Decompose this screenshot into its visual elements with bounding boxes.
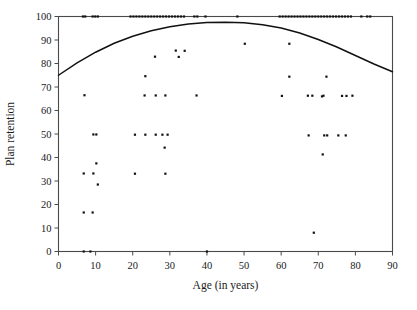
data-point (174, 15, 176, 17)
data-point (288, 76, 290, 78)
data-point (366, 15, 368, 17)
plot-frame (59, 17, 393, 252)
data-point (153, 15, 155, 17)
data-point (92, 172, 94, 174)
data-point (204, 15, 206, 17)
data-point (95, 162, 97, 164)
data-point (177, 15, 179, 17)
data-point (325, 76, 327, 78)
data-point (329, 15, 331, 17)
data-point (308, 134, 310, 136)
data-point-group (82, 15, 371, 252)
data-point (311, 15, 313, 17)
x-tick-label: 90 (387, 260, 398, 271)
y-tick-label: 60 (41, 105, 52, 116)
data-point (92, 211, 94, 213)
fit-curve (59, 22, 393, 75)
data-point (281, 95, 283, 97)
data-point (135, 15, 137, 17)
data-point (282, 15, 284, 17)
x-tick-label: 0 (56, 260, 61, 271)
data-point (144, 94, 146, 96)
data-point (299, 15, 301, 17)
data-point (314, 15, 316, 17)
data-point (138, 15, 140, 17)
data-point (305, 15, 307, 17)
data-point (92, 15, 94, 17)
data-point (311, 95, 313, 97)
data-point (347, 15, 349, 17)
data-point (150, 15, 152, 17)
data-point (165, 15, 167, 17)
data-point (323, 15, 325, 17)
data-point (154, 56, 156, 58)
data-point (183, 15, 185, 17)
y-tick-label: 90 (41, 35, 52, 46)
data-point (97, 15, 99, 17)
data-point (360, 15, 362, 17)
data-point (155, 134, 157, 136)
data-point (244, 43, 246, 45)
data-point (341, 15, 343, 17)
x-tick-label: 30 (165, 260, 176, 271)
data-point (302, 15, 304, 17)
y-tick-label: 10 (41, 223, 52, 234)
data-point (134, 134, 136, 136)
data-point (89, 250, 91, 252)
data-point (279, 15, 281, 17)
y-tick-label: 20 (41, 199, 52, 210)
data-point (92, 133, 94, 135)
y-tick-label: 80 (41, 58, 52, 69)
data-point (83, 172, 85, 174)
data-point (83, 211, 85, 213)
data-point (97, 183, 99, 185)
data-point (162, 15, 164, 17)
data-point (196, 15, 198, 17)
x-tick-label: 70 (313, 260, 324, 271)
data-point (147, 15, 149, 17)
data-point (290, 15, 292, 17)
data-point (323, 134, 325, 136)
chart-figure: 0102030405060708090Age (in years)0102030… (0, 0, 417, 310)
data-point (296, 15, 298, 17)
data-point (141, 15, 143, 17)
data-point (132, 15, 134, 17)
data-point (164, 147, 166, 149)
data-point (178, 56, 180, 58)
data-point (184, 50, 186, 52)
scatter-plot-svg: 0102030405060708090Age (in years)0102030… (0, 0, 417, 310)
data-point (156, 15, 158, 17)
data-point (161, 134, 163, 136)
data-point (164, 94, 166, 96)
x-tick-label: 40 (202, 260, 213, 271)
y-tick-label: 40 (41, 152, 52, 163)
data-point (129, 15, 131, 17)
data-point (293, 15, 295, 17)
data-point (351, 95, 353, 97)
data-point (326, 15, 328, 17)
data-point (155, 94, 157, 96)
data-point (83, 94, 85, 96)
data-point (159, 15, 161, 17)
data-point (338, 15, 340, 17)
data-point (193, 15, 195, 17)
data-point (144, 15, 146, 17)
x-axis-title: Age (in years) (193, 279, 259, 292)
data-point (345, 134, 347, 136)
y-axis: 0102030405060708090100Plan retention (4, 11, 59, 257)
data-point (144, 134, 146, 136)
y-tick-label: 0 (46, 246, 51, 257)
x-tick-label: 60 (276, 260, 287, 271)
x-tick-label: 10 (90, 260, 101, 271)
data-point (350, 15, 352, 17)
y-tick-label: 70 (41, 82, 52, 93)
y-axis-title: Plan retention (4, 102, 16, 166)
y-tick-label: 100 (36, 11, 52, 22)
data-point (94, 15, 96, 17)
data-point (175, 49, 177, 51)
data-point (84, 15, 86, 17)
y-tick-label: 30 (41, 176, 52, 187)
data-point (307, 95, 309, 97)
data-point (167, 134, 169, 136)
data-point (345, 95, 347, 97)
